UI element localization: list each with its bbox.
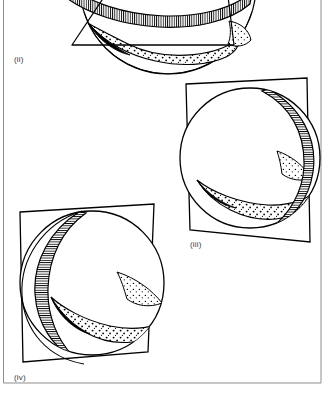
panel-label-iii: (iii) (190, 240, 202, 249)
panel-label-iv: (iv) (14, 373, 26, 382)
panel-label-ii: (ii) (14, 55, 24, 64)
panel-ii: (ii) (14, 0, 256, 74)
panel-iv: (iv) (14, 204, 170, 382)
geometric-figure: (ii) (iii) (0, 0, 333, 398)
figure-root: (ii) (iii) (0, 0, 333, 398)
panel-iii: (iii) (180, 78, 320, 249)
